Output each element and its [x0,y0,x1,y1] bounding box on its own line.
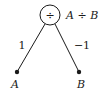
leaf-node-a [15,70,19,74]
root-expression-label: A ÷ B [65,9,98,22]
leaf-node-b [77,70,81,74]
leaf-label-b: B [76,78,85,91]
root-operator-symbol: ÷ [45,9,54,22]
edge-weight-left: 1 [19,39,26,52]
edge-weight-right: −1 [74,39,90,52]
computational-graph: ÷ A ÷ B 1 −1 A B [0,0,103,94]
leaf-label-a: A [10,78,19,91]
